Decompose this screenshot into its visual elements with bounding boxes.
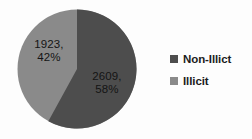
legend-swatch-non-illict [170, 55, 178, 63]
pie-label-non-illict-percent: 58% [78, 83, 136, 96]
chart-legend: Non-Illict Illicit [170, 48, 250, 92]
pie-label-illicit-value: 1923, [20, 38, 78, 51]
legend-label-illicit: Illicit [183, 75, 209, 87]
pie-label-non-illict: 2609, 58% [78, 70, 136, 96]
legend-label-non-illict: Non-Illict [183, 53, 231, 65]
pie-svg [17, 9, 137, 129]
pie-graphic [17, 9, 137, 129]
legend-item-illicit[interactable]: Illicit [170, 70, 250, 92]
pie-label-non-illict-value: 2609, [78, 70, 136, 83]
legend-swatch-illicit [170, 77, 178, 85]
legend-item-non-illict[interactable]: Non-Illict [170, 48, 250, 70]
pie-label-illicit-percent: 42% [20, 51, 78, 64]
pie-chart: 1923, 42% 2609, 58% Non-Illict Illicit [0, 0, 252, 139]
pie-label-illicit: 1923, 42% [20, 38, 78, 64]
